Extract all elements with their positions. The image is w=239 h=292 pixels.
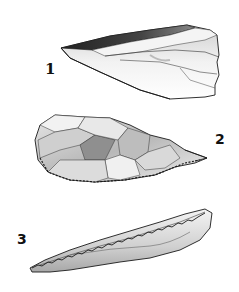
artifact-1-label: 1 (45, 62, 55, 77)
artifact-3-drawing (30, 209, 212, 272)
artifact-2-drawing (35, 115, 207, 182)
artifact-drawings (0, 0, 239, 292)
artifact-figure: 1 2 3 (0, 0, 239, 292)
artifact-3-label: 3 (17, 232, 27, 246)
artifact-1-drawing (61, 25, 219, 99)
artifact-2-label: 2 (215, 132, 225, 146)
